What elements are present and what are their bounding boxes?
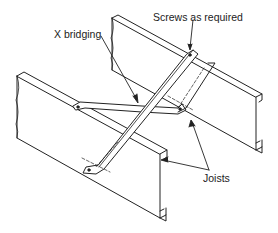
joist-bridging-drawing bbox=[0, 0, 278, 233]
x-bridging-label: X bridging bbox=[54, 28, 101, 40]
front-joist bbox=[16, 72, 167, 221]
diagram-canvas: Screws as required X bridging Joists bbox=[0, 0, 278, 233]
screws-label: Screws as required bbox=[153, 11, 243, 23]
joists-label: Joists bbox=[203, 172, 230, 184]
